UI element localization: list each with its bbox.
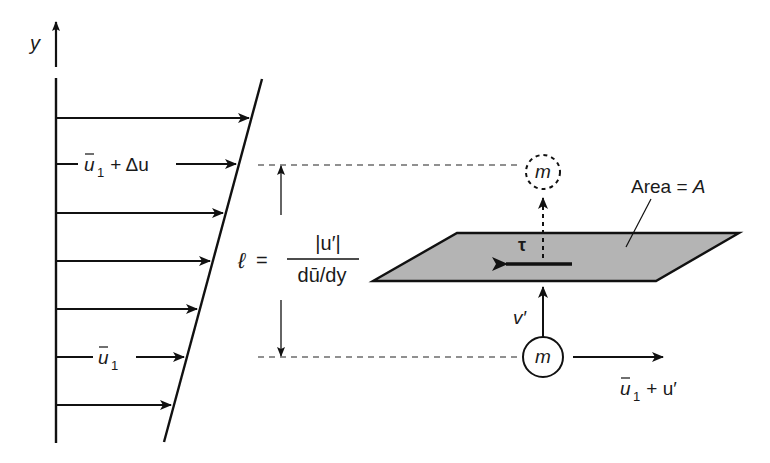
mixing-length-formula: ℓ = |u′| dū/dy [237,232,359,286]
displaced-parcel-label: m [535,161,551,182]
svg-text:1: 1 [111,358,118,373]
svg-text:u: u [84,154,95,175]
svg-text:u: u [620,378,631,399]
mixing-length-diagram: y u 1 + Δu u 1 ℓ = |u′| [0,0,770,463]
svg-text:1: 1 [97,165,104,180]
ell-symbol: ℓ [237,248,246,273]
horizontal-velocity-label: u 1 + u′ [620,378,677,404]
svg-text:u: u [98,347,109,368]
parcel-label: m [535,346,551,367]
area-plane [373,233,739,281]
lower-velocity-label: u 1 [98,347,118,373]
y-axis-label: y [28,32,41,54]
svg-text:=: = [256,249,268,271]
svg-text:+ u′: + u′ [641,378,677,399]
formula-denominator: dū/dy [298,264,347,286]
vertical-velocity-label: v′ [513,307,528,328]
svg-text:+ Δu: + Δu [105,154,149,175]
svg-text:1: 1 [633,389,640,404]
y-axis: y [28,22,56,67]
upper-velocity-label: u 1 + Δu [84,154,149,180]
area-label: Area = A [631,176,705,197]
formula-numerator: |u′| [315,232,340,254]
tau-label: τ [518,235,526,255]
